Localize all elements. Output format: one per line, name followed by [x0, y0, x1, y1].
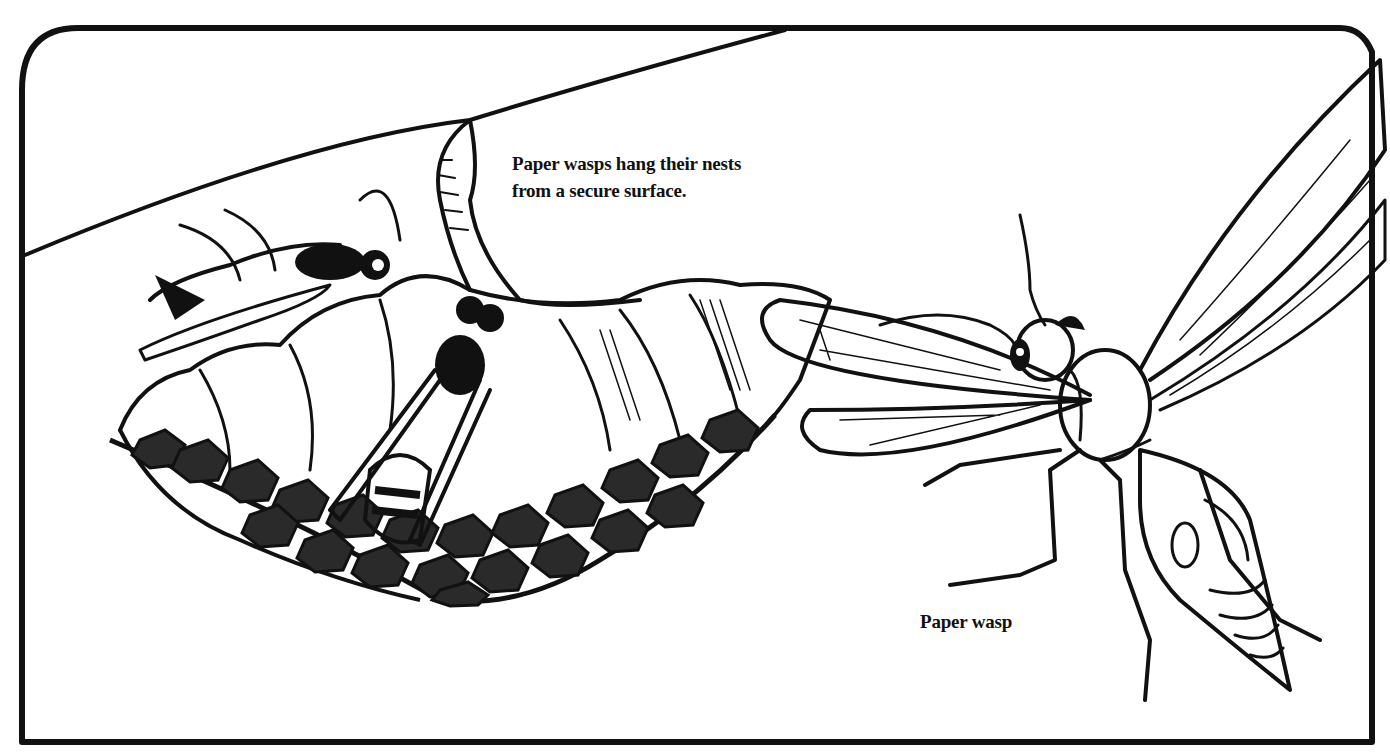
- nest-caption-line-1: Paper wasps hang their nests: [512, 150, 741, 177]
- ceiling-surface: [25, 30, 785, 255]
- nest-stalk: [438, 120, 640, 305]
- paper-wasp-label: Paper wasp: [920, 610, 1012, 634]
- honeycomb-cells: [110, 410, 775, 606]
- paper-wasp-illustration: [0, 0, 1390, 755]
- large-paper-wasp: [762, 60, 1385, 700]
- nest-caption-line-2: from a secure surface.: [512, 177, 741, 204]
- nest-caption: Paper wasps hang their nests from a secu…: [512, 150, 741, 204]
- small-wasp-left: [140, 191, 400, 360]
- illustration-frame: [22, 28, 1372, 742]
